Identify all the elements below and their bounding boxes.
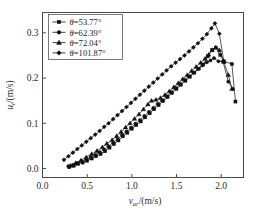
y-axis-tick-label: 0.3 [27,28,39,38]
data-point-circle [156,102,159,105]
legend-item-label: θ=62.39° [70,28,102,38]
data-point-circle [129,126,132,129]
series-markers [67,56,235,167]
data-point-circle [116,137,119,140]
series-line [70,47,232,165]
data-point-circle [138,118,141,121]
x-axis-tick-label: 0.0 [37,181,49,191]
data-point-circle [217,60,220,63]
chart-plot-area: 0.00.51.01.52.00.00.10.20.3 θ=53.77°θ=62… [0,0,272,217]
data-point-triangle [158,96,162,100]
y-axis-tick-label: 0.2 [27,73,39,83]
data-point-circle [147,110,150,113]
x-axis-title: var/(m/s) [129,196,162,207]
y-axis-title: ut/(m/s) [5,80,16,109]
data-point-triangle [105,141,109,145]
data-point-circle [152,106,155,109]
chart-legend: θ=53.77°θ=62.39°θ=72.04°θ=101.87° [49,15,123,60]
y-axis-tick-label: 0.0 [27,164,39,174]
data-point-diamond [217,32,221,36]
series-theta=62.39 [67,56,235,167]
data-point-square [234,100,237,103]
data-point-circle [212,56,215,59]
data-point-circle [57,30,61,34]
legend-item-label: θ=53.77° [70,17,102,27]
x-axis-tick-label: 0.5 [81,181,93,191]
legend-item-label: θ=101.87° [70,48,107,58]
chart-figure: 0.00.51.01.52.00.00.10.20.3 θ=53.77°θ=62… [0,0,272,217]
y-axis-title-group: ut/(m/s) [5,80,16,109]
data-point-circle [94,153,97,156]
data-point-triangle [95,149,99,153]
data-point-circle [89,155,92,158]
data-point-square [57,20,61,24]
data-point-square [230,62,233,65]
data-point-circle [209,59,212,62]
legend-item-label: θ=72.04° [70,38,102,48]
x-axis-tick-label: 1.5 [171,181,183,191]
data-point-circle [134,122,137,125]
series-markers [68,45,234,167]
data-point-circle [143,114,146,117]
x-axis-tick-label: 2.0 [215,181,227,191]
data-point-circle [125,130,128,133]
x-axis-tick-label: 1.0 [126,181,138,191]
data-point-circle [120,133,123,136]
data-point-triangle [84,155,88,159]
series-theta=72.04 [68,45,234,167]
data-point-triangle [89,152,93,156]
y-axis-tick-label: 0.1 [27,119,39,129]
data-point-circle [205,61,208,64]
